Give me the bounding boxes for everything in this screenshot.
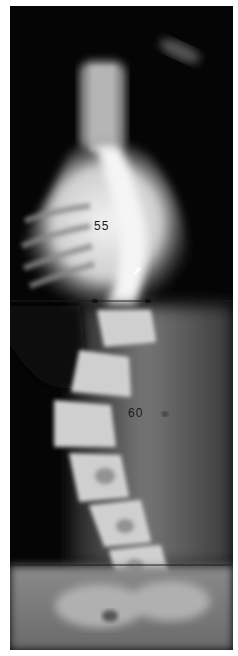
xray-drawing: [10, 6, 233, 650]
marker-left: [92, 299, 98, 303]
lower-curve-angle-label: 60: [128, 406, 143, 420]
shoulder-shadow: [157, 34, 204, 67]
marker-right: [145, 299, 151, 303]
xray-film: 55 60: [10, 6, 233, 650]
upper-curve-angle-label: 55: [94, 219, 109, 233]
